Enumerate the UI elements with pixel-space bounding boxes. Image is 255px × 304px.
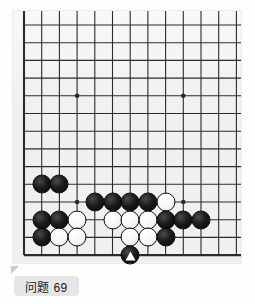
caption-fold-corner [11,266,19,274]
go-stone-black [174,210,193,229]
problem-caption: 问题 69 [14,276,79,296]
go-stone-white [138,228,157,247]
go-stone-black [32,228,51,247]
page-root: 问题 69 [0,0,255,304]
problem-caption-label: 问题 69 [25,278,68,295]
go-stone-black [50,210,69,229]
go-stone-black [32,210,51,229]
go-stone-black [192,210,211,229]
go-stone-black [32,175,51,194]
go-stone-white [121,210,140,229]
go-stone-black [121,193,140,212]
go-stone-white [68,228,87,247]
go-stone-black [103,193,122,212]
go-stone-white [68,210,87,229]
go-stone-black [156,228,175,247]
go-stone-white [121,228,140,247]
go-stone-white [138,210,157,229]
go-stone-white [156,193,175,212]
go-stone-black [50,175,69,194]
go-stone-black [138,193,157,212]
triangle-marker-icon [125,251,135,260]
go-stone-black-marked [121,246,140,265]
go-stone-black [85,193,104,212]
go-stone-white [50,228,69,247]
go-stone-white [103,210,122,229]
go-stone-black [156,210,175,229]
go-board-panel [13,11,241,263]
